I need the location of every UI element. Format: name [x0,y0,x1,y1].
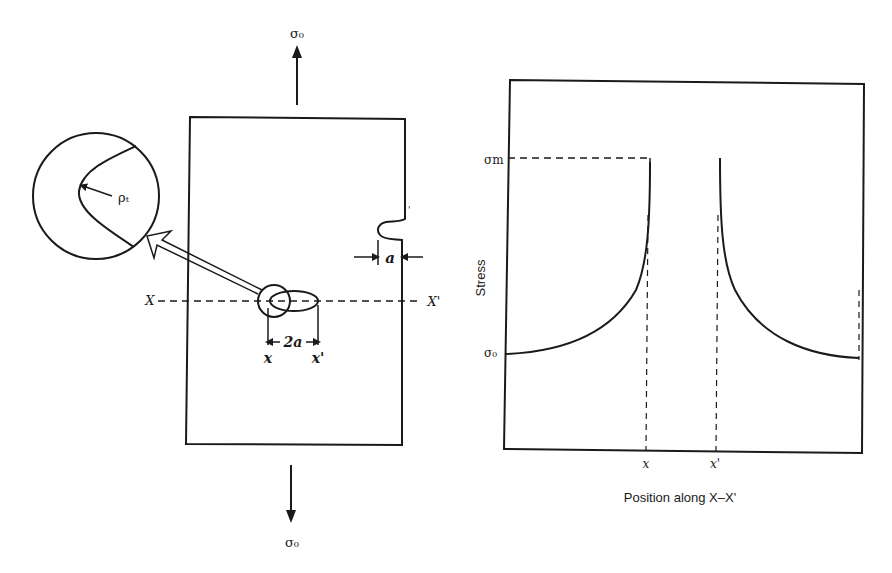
plate-diagram: σ₀ a ' X X' 2a x x' [33,26,440,550]
crack-tip-magnifier [258,285,290,317]
crack-start-label: x [263,350,273,366]
edge-crack-label: a [385,249,395,267]
axis-right-label: X' [427,294,441,309]
sigma-m-label: σm [484,153,504,167]
x-prime-dashed-line [716,215,718,451]
stress-curve-left [505,162,650,354]
load-arrow-up-icon [292,45,302,105]
chart-frame [504,80,864,453]
x-tick-right: x' [710,457,720,471]
load-bottom-label: σ₀ [285,535,299,550]
stress-chart: σm σ₀ Stress x x' Position along X–X' [473,80,864,505]
load-arrow-down-icon [286,465,296,523]
sigma-0-label: σ₀ [484,346,497,360]
axis-left-label: X [144,293,155,308]
load-top-label: σ₀ [290,26,304,41]
x-tick-left: x [643,457,650,471]
fracture-diagram: σ₀ a ' X X' 2a x x' [0,0,892,573]
crack-length-label: 2a [283,334,303,350]
magnified-view-circle [33,133,159,259]
tip-radius-arrow-icon [83,186,112,196]
magnify-pointer-arrow [147,231,262,294]
plate-outline [186,117,405,445]
edge-mark: ' [408,205,410,215]
x-axis-label: Position along X–X' [624,490,736,505]
y-axis-label: Stress [473,259,488,296]
stress-curve-right [720,158,859,358]
tip-radius-label: ρₜ [118,190,130,205]
crack-end-label: x' [311,350,325,366]
